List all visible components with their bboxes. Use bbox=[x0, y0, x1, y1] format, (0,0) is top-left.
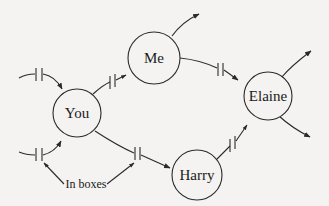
node-label-elaine: Elaine bbox=[249, 88, 288, 104]
edge-me-to-elaine bbox=[180, 58, 238, 80]
edge-you-to-harry bbox=[95, 131, 170, 168]
node-elaine: Elaine bbox=[244, 72, 292, 120]
edge-me-to-external bbox=[172, 14, 199, 36]
node-label-me: Me bbox=[144, 50, 164, 66]
edge-external-to-you-bottom bbox=[19, 141, 61, 161]
node-label-you: You bbox=[65, 105, 90, 121]
edge-elaine-to-external-top bbox=[281, 51, 311, 78]
edge-you-to-me bbox=[93, 74, 126, 94]
edge-external-to-you-top bbox=[19, 68, 62, 89]
node-harry: Harry bbox=[172, 150, 222, 200]
node-me: Me bbox=[128, 32, 180, 84]
node-you: You bbox=[53, 89, 101, 137]
edge-elaine-to-external-bottom bbox=[279, 116, 310, 137]
message-network-diagram: You Me Elaine Harry In boxes bbox=[0, 0, 329, 206]
edge-harry-to-elaine bbox=[216, 125, 247, 160]
annotation-in-boxes: In boxes bbox=[44, 163, 134, 191]
node-label-harry: Harry bbox=[180, 167, 215, 183]
in-boxes-label: In boxes bbox=[66, 177, 107, 191]
